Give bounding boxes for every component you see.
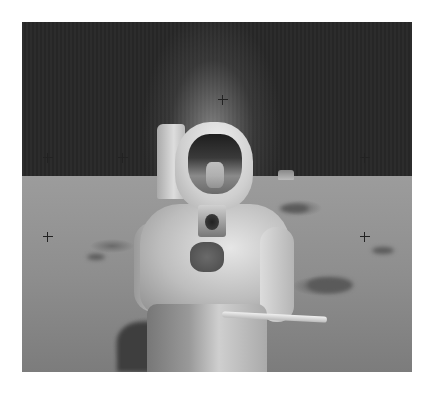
moon-astronaut-photo [22, 22, 412, 372]
reseau-crosshair [43, 232, 53, 242]
reseau-crosshair [118, 153, 128, 163]
reseau-crosshair [360, 153, 370, 163]
crater [307, 277, 353, 293]
glove [190, 242, 224, 272]
crater [87, 254, 105, 260]
lunar-module [278, 170, 294, 180]
reseau-crosshair [218, 95, 228, 105]
reseau-crosshair [43, 153, 53, 163]
reseau-crosshair [360, 232, 370, 242]
camera-lens [205, 214, 219, 230]
crater [372, 247, 394, 254]
visor-reflection [206, 162, 224, 188]
crater [280, 204, 308, 213]
